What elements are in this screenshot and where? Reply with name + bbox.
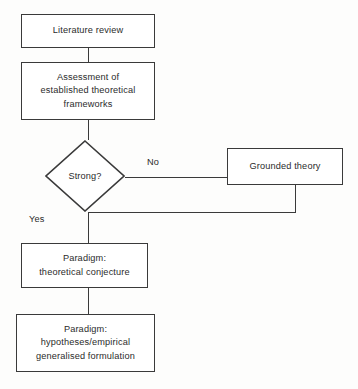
node-paradigm-theoretical[interactable]: Paradigm: theoretical conjecture bbox=[21, 243, 148, 288]
flowchart-canvas: Literature review Assessment of establis… bbox=[0, 0, 358, 389]
node-decision-strong[interactable]: Strong? bbox=[45, 140, 125, 212]
node-literature-review[interactable]: Literature review bbox=[21, 14, 155, 48]
edge-label-no: No bbox=[147, 157, 159, 167]
node-paradigm-hypotheses[interactable]: Paradigm: hypotheses/empirical generalis… bbox=[16, 314, 155, 372]
node-paradigm-hypotheses-line-2: hypotheses/empirical bbox=[41, 336, 130, 350]
node-grounded-theory[interactable]: Grounded theory bbox=[227, 148, 343, 185]
node-assessment-line-2: established theoretical bbox=[41, 84, 136, 98]
node-decision-strong-label: Strong? bbox=[45, 140, 125, 212]
edge-label-yes: Yes bbox=[29, 214, 44, 224]
connector-decision-no-to-grounded-theory bbox=[125, 177, 227, 178]
node-literature-review-line-1: Literature review bbox=[53, 24, 123, 38]
node-paradigm-theoretical-line-2: theoretical conjecture bbox=[39, 266, 130, 280]
node-assessment-line-1: Assessment of bbox=[57, 71, 119, 85]
connector-assessment-to-decision bbox=[88, 120, 89, 140]
connector-grounded-theory-down bbox=[295, 185, 296, 212]
connector-paradigm-theoretical-to-paradigm-hypotheses bbox=[88, 288, 89, 314]
node-paradigm-hypotheses-line-3: generalised formulation bbox=[36, 350, 135, 364]
node-assessment[interactable]: Assessment of established theoretical fr… bbox=[21, 62, 155, 120]
connector-literature-to-assessment bbox=[88, 48, 89, 62]
node-assessment-line-3: frameworks bbox=[64, 98, 113, 112]
node-grounded-theory-line-1: Grounded theory bbox=[249, 160, 320, 174]
connector-decision-yes-to-paradigm-theoretical bbox=[88, 212, 89, 243]
node-paradigm-theoretical-line-1: Paradigm: bbox=[63, 252, 106, 266]
node-paradigm-hypotheses-line-1: Paradigm: bbox=[64, 323, 107, 337]
